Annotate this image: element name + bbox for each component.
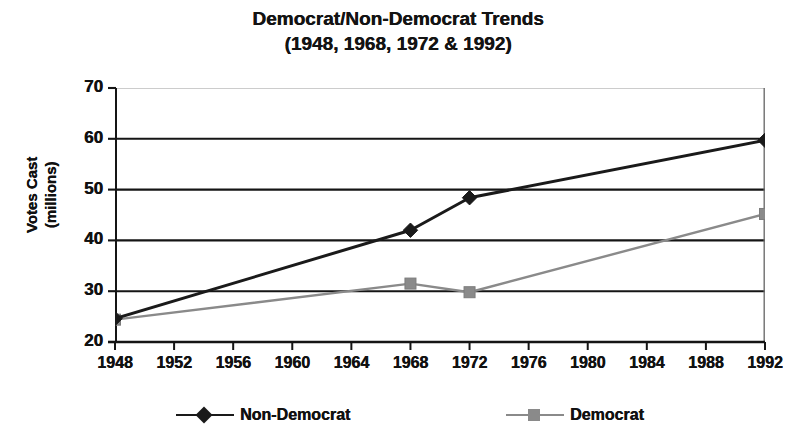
legend-swatch-democrat [506, 406, 564, 424]
y-axis-title-line-1: Votes Cast [22, 95, 41, 295]
legend-item-non-democrat: Non-Democrat [176, 404, 350, 426]
chart-title-line-1: Democrat/Non-Democrat Trends [0, 6, 796, 31]
y-tick-label: 30 [43, 280, 103, 300]
legend-label-non-democrat: Non-Democrat [240, 406, 350, 424]
square-marker-icon [528, 409, 540, 421]
chart-legend: Non-Democrat Democrat [0, 404, 796, 434]
y-tick-label: 70 [43, 77, 103, 97]
chart-title: Democrat/Non-Democrat Trends (1948, 1968… [0, 6, 796, 56]
legend-label-democrat: Democrat [570, 406, 644, 424]
diamond-marker-icon [196, 407, 213, 424]
legend-swatch-non-democrat [176, 406, 234, 424]
y-tick-label: 40 [43, 229, 103, 249]
y-tick-label: 50 [43, 179, 103, 199]
chart-container: Democrat/Non-Democrat Trends (1948, 1968… [0, 0, 796, 439]
legend-item-democrat: Democrat [506, 404, 644, 426]
y-tick-label: 60 [43, 128, 103, 148]
chart-title-line-2: (1948, 1968, 1972 & 1992) [0, 31, 796, 56]
y-tick-label: 20 [43, 331, 103, 351]
axis-ticks-svg [100, 80, 790, 360]
